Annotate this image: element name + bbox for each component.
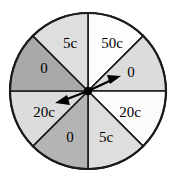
sector-label-0-bottom-left: 0	[66, 129, 74, 145]
sector-label-20c-lower-right: 20c	[119, 104, 141, 120]
sector-label-5c-bottom-right: 5c	[99, 129, 114, 145]
sector-label-50c: 50c	[101, 35, 123, 51]
spinner-wheel-graphic: 50c 0 20c 5c 0 20c 0 5c	[0, 0, 172, 181]
sector-label-20c-lower-left: 20c	[33, 104, 55, 120]
sector-label-5c-top-left: 5c	[63, 35, 78, 51]
spinner-hub[interactable]	[84, 87, 92, 95]
sector-label-0-upper-left: 0	[40, 60, 48, 76]
spinner-figure: 50c 0 20c 5c 0 20c 0 5c	[0, 0, 172, 181]
sector-label-0-upper-right: 0	[127, 64, 135, 80]
